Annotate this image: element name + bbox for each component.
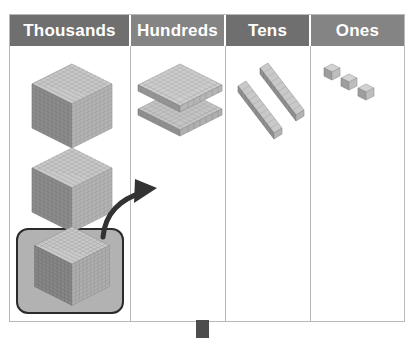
column-hundreds [131, 46, 226, 321]
cube-icon [30, 62, 114, 152]
place-value-chart: Thousands Hundreds Tens Ones [9, 14, 405, 322]
thousand-cube-block-selected[interactable] [32, 225, 112, 309]
column-thousands [10, 46, 131, 321]
column-header-tens: Tens [226, 15, 311, 46]
chart-body [10, 46, 404, 321]
rod-icon [234, 60, 306, 138]
bottom-tab-marker [196, 320, 209, 338]
column-header-hundreds: Hundreds [131, 15, 226, 46]
one-unit-group [323, 61, 385, 109]
column-ones [311, 46, 404, 321]
thousand-cube-block [30, 146, 114, 236]
column-header-label: Hundreds [137, 21, 218, 41]
column-header-row: Thousands Hundreds Tens Ones [10, 15, 404, 46]
column-header-label: Thousands [23, 21, 115, 41]
column-header-ones: Ones [311, 15, 404, 46]
column-header-label: Tens [248, 21, 287, 41]
column-header-label: Ones [336, 21, 379, 41]
flat-icon [134, 62, 226, 138]
column-tens [226, 46, 311, 321]
column-header-thousands: Thousands [10, 15, 131, 46]
cube-icon [32, 225, 112, 309]
cube-icon [30, 146, 114, 236]
unit-icon [323, 61, 385, 109]
thousand-cube-block [30, 62, 114, 152]
ten-rod-group [234, 60, 306, 138]
hundred-flat-stack [134, 62, 226, 138]
